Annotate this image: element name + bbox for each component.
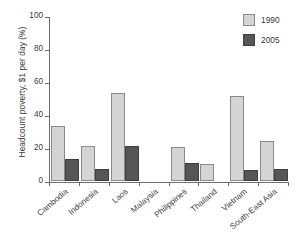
bar-group-cambodia — [49, 17, 79, 182]
legend-item-2005[interactable]: 2005 — [243, 33, 280, 47]
legend-label: 1990 — [261, 15, 280, 25]
y-tick-label: 40 — [34, 110, 43, 119]
legend-label: 2005 — [261, 35, 280, 45]
x-label-text: Thailand — [189, 187, 219, 214]
legend-swatch-1990 — [243, 14, 255, 26]
legend: 19902005 — [243, 13, 280, 53]
bar-group-malaysia — [139, 17, 169, 182]
bar-chart: Headcount poverty, $1 per day (%) 020406… — [0, 0, 297, 252]
bar-group-philippines — [169, 17, 199, 182]
y-tick-label: 80 — [34, 44, 43, 53]
bar-group-laos — [109, 17, 139, 182]
bar-group-thailand — [198, 17, 228, 182]
x-label-text: Laos — [110, 187, 129, 205]
y-tick-label: 0 — [38, 176, 43, 185]
y-tick-label: 60 — [34, 77, 43, 86]
bar-1990-cambodia — [51, 126, 65, 181]
legend-swatch-2005 — [243, 34, 255, 46]
legend-item-1990[interactable]: 1990 — [243, 13, 280, 27]
y-axis-title: Headcount poverty, $1 per day (%) — [17, 7, 27, 177]
y-tick-label: 100 — [29, 11, 43, 20]
y-tick-label: 20 — [34, 143, 43, 152]
x-label-text: Cambodia — [35, 187, 69, 218]
bar-group-indonesia — [79, 17, 109, 182]
x-tick-mark — [49, 182, 50, 186]
